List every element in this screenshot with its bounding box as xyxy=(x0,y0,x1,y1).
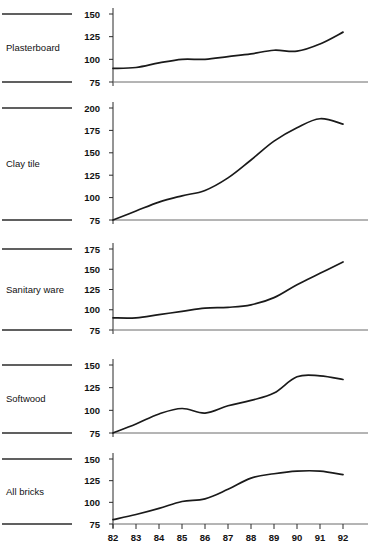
chart-panel-sanitary-ware: 75100125150175Sanitary ware xyxy=(2,243,368,336)
x-tick-label: 85 xyxy=(177,532,188,543)
y-tick-label: 125 xyxy=(84,170,101,181)
panel-title: Sanitary ware xyxy=(6,284,64,295)
y-tick-label: 200 xyxy=(84,103,100,114)
panel-title: Clay tile xyxy=(6,158,40,169)
data-series-line xyxy=(113,262,343,318)
x-axis: 8283848586878889909192 xyxy=(108,524,349,543)
x-tick-label: 91 xyxy=(315,532,326,543)
panel-title: All bricks xyxy=(6,486,44,497)
y-tick-label: 75 xyxy=(89,428,100,439)
chart-canvas: 75100125150Plasterboard75100125150175200… xyxy=(0,0,371,549)
y-tick-label: 175 xyxy=(84,244,101,255)
x-tick-label: 83 xyxy=(131,532,142,543)
chart-panel-clay-tile: 75100125150175200Clay tile xyxy=(2,102,368,226)
panel-title: Plasterboard xyxy=(6,42,60,53)
y-tick-label: 75 xyxy=(89,519,100,530)
x-tick-label: 86 xyxy=(200,532,211,543)
chart-panel-all-bricks: 75100125150All bricks xyxy=(2,453,368,530)
y-tick-label: 100 xyxy=(84,304,100,315)
x-tick-label: 92 xyxy=(338,532,349,543)
x-tick-label: 84 xyxy=(154,532,165,543)
y-tick-label: 150 xyxy=(84,147,100,158)
chart-panel-plasterboard: 75100125150Plasterboard xyxy=(2,8,368,88)
multi-panel-line-chart: 75100125150Plasterboard75100125150175200… xyxy=(0,0,371,549)
chart-panel-softwood: 75100125150Softwood xyxy=(2,359,368,439)
data-series-line xyxy=(113,32,343,68)
y-tick-label: 125 xyxy=(84,382,101,393)
data-series-line xyxy=(113,375,343,433)
data-series-line xyxy=(113,471,343,520)
x-tick-label: 89 xyxy=(269,532,280,543)
y-tick-label: 75 xyxy=(89,77,100,88)
y-tick-label: 150 xyxy=(84,264,100,275)
x-tick-label: 87 xyxy=(223,532,234,543)
y-tick-label: 150 xyxy=(84,9,100,20)
x-tick-label: 90 xyxy=(292,532,303,543)
data-series-line xyxy=(113,119,343,220)
y-tick-label: 100 xyxy=(84,497,100,508)
y-tick-label: 100 xyxy=(84,405,100,416)
y-tick-label: 175 xyxy=(84,125,101,136)
x-tick-label: 88 xyxy=(246,532,257,543)
panel-title: Softwood xyxy=(6,393,46,404)
y-tick-label: 125 xyxy=(84,475,101,486)
x-tick-label: 82 xyxy=(108,532,119,543)
y-tick-label: 75 xyxy=(89,325,100,336)
y-tick-label: 100 xyxy=(84,192,100,203)
y-tick-label: 150 xyxy=(84,454,100,465)
y-tick-label: 150 xyxy=(84,360,100,371)
y-tick-label: 100 xyxy=(84,54,100,65)
y-tick-label: 125 xyxy=(84,284,101,295)
y-tick-label: 75 xyxy=(89,215,100,226)
y-tick-label: 125 xyxy=(84,31,101,42)
